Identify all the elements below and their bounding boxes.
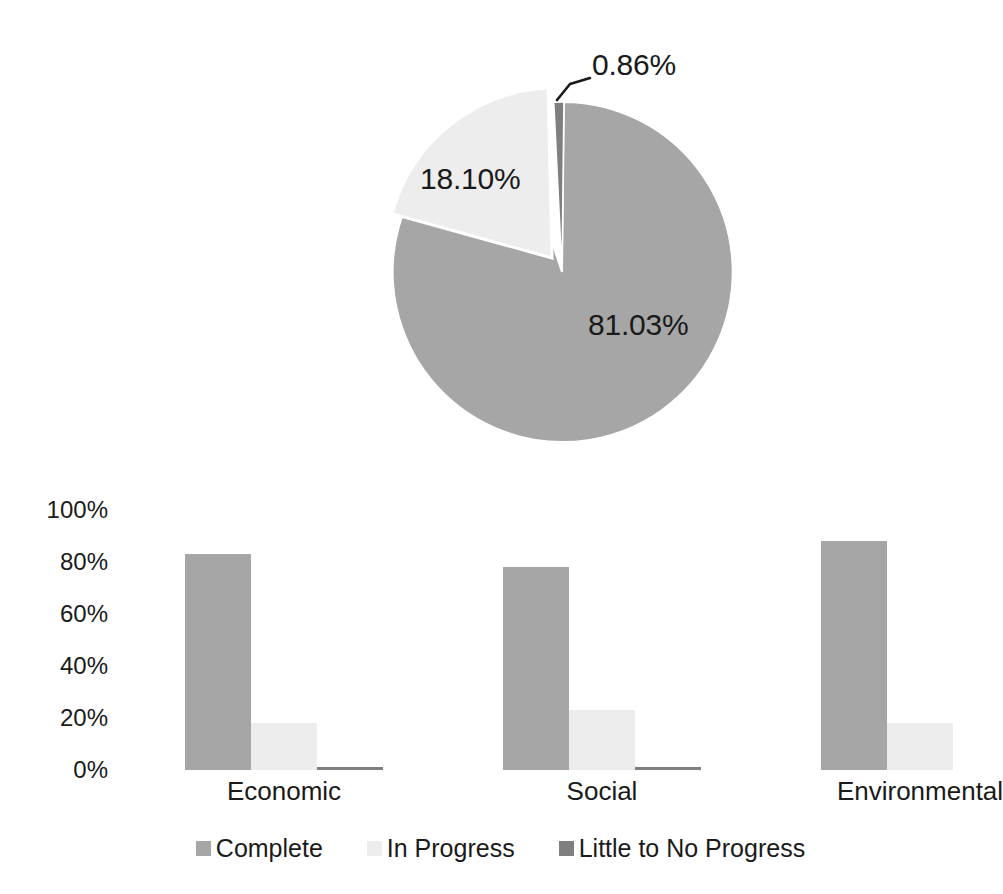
y-axis-tick-label: 100% xyxy=(20,496,108,524)
x-axis-category-label: Social xyxy=(567,776,638,807)
bar-social-in-progress xyxy=(569,710,635,770)
pie-data-label-complete: 81.03% xyxy=(588,308,689,342)
pie-slice-little-to-no-progress xyxy=(554,102,564,272)
pie-leader-line xyxy=(557,78,590,100)
bar-economic-in-progress xyxy=(251,723,317,770)
legend-swatch-icon xyxy=(559,841,574,856)
pie-chart: 0.86% 18.10% 81.03% xyxy=(0,0,1001,490)
bar-environmental-complete xyxy=(821,541,887,770)
legend-item-complete[interactable]: Complete xyxy=(196,834,323,863)
y-axis-tick-label: 60% xyxy=(20,600,108,628)
pie-chart-graphic xyxy=(0,0,1001,490)
x-axis-category-label: Economic xyxy=(227,776,341,807)
y-axis: 0%20%40%60%80%100% xyxy=(20,490,108,790)
bar-social-complete xyxy=(503,567,569,770)
y-axis-tick-label: 40% xyxy=(20,652,108,680)
legend-item-little-to-no-progress[interactable]: Little to No Progress xyxy=(559,834,806,863)
legend-swatch-icon xyxy=(367,841,382,856)
legend-label: Little to No Progress xyxy=(579,834,806,863)
x-axis-category-label: Environmental xyxy=(837,776,1003,807)
pie-data-label-little-to-no-progress: 0.86% xyxy=(592,48,676,82)
bar-environmental-in-progress xyxy=(887,723,953,770)
bar-economic-little-to-no-progress xyxy=(317,767,383,770)
legend-swatch-icon xyxy=(196,841,211,856)
y-axis-tick-label: 20% xyxy=(20,704,108,732)
bar-chart: 0%20%40%60%80%100% EconomicSocialEnviron… xyxy=(0,490,1001,894)
y-axis-tick-label: 80% xyxy=(20,548,108,576)
y-axis-tick-label: 0% xyxy=(20,756,108,784)
bar-social-little-to-no-progress xyxy=(635,767,701,770)
legend-label: In Progress xyxy=(387,834,515,863)
legend-item-in-progress[interactable]: In Progress xyxy=(367,834,515,863)
legend-label: Complete xyxy=(216,834,323,863)
pie-data-label-in-progress: 18.10% xyxy=(420,162,521,196)
bar-economic-complete xyxy=(185,554,251,770)
bar-plot-area: 0%20%40%60%80%100% EconomicSocialEnviron… xyxy=(0,490,1001,790)
chart-legend: CompleteIn ProgressLittle to No Progress xyxy=(0,834,1001,863)
